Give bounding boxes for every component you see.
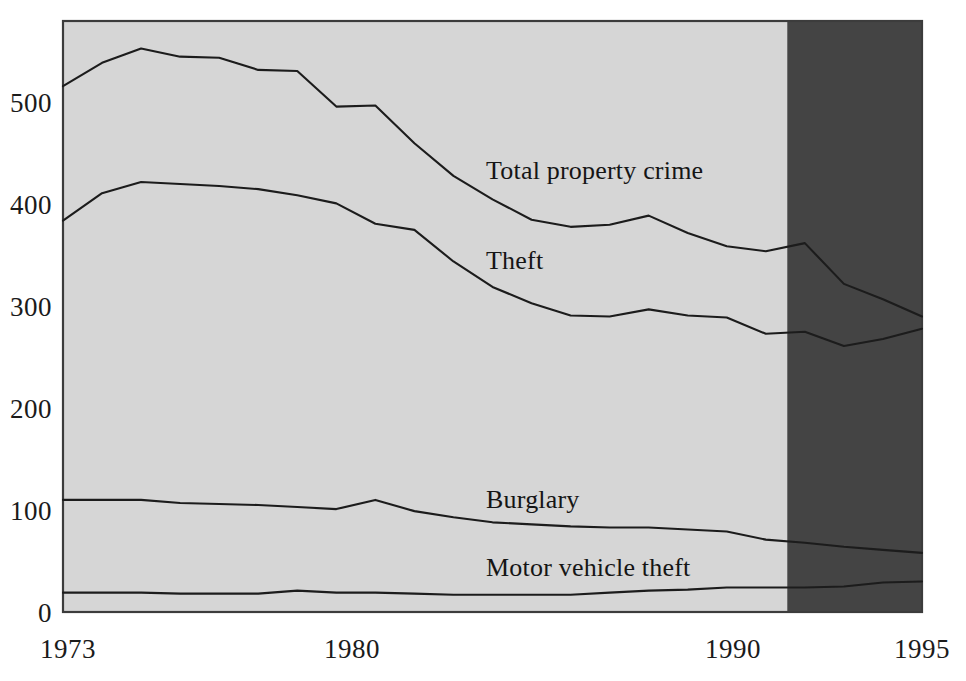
x-tick-1973: 1973 — [13, 634, 123, 665]
series-label-total-property-crime: Total property crime — [486, 156, 703, 186]
series-label-burglary: Burglary — [486, 485, 580, 515]
series-label-motor-vehicle-theft: Motor vehicle theft — [486, 553, 691, 583]
y-tick-0: 0 — [0, 598, 52, 629]
line-chart-canvas — [0, 0, 966, 681]
x-tick-1990: 1990 — [678, 634, 788, 665]
y-tick-100: 100 — [0, 496, 52, 527]
chart-figure: 500 400 300 200 100 0 1973 1980 1990 199… — [0, 0, 966, 681]
x-tick-1995: 1995 — [867, 634, 966, 665]
y-tick-300: 300 — [0, 292, 52, 323]
y-tick-200: 200 — [0, 394, 52, 425]
redesign-shaded-region — [787, 21, 922, 612]
y-tick-400: 400 — [0, 190, 52, 221]
x-tick-1980: 1980 — [297, 634, 407, 665]
y-tick-500: 500 — [0, 88, 52, 119]
series-label-theft: Theft — [486, 246, 543, 276]
